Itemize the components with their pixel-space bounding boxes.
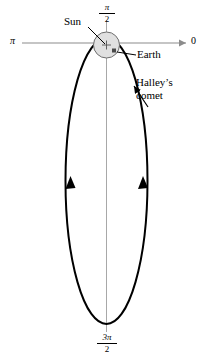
- angle-label-zero: 0: [191, 36, 196, 46]
- orbit-direction-arrow-left: [66, 176, 76, 189]
- halleys-comet-label-line1: Halley’s: [136, 76, 173, 89]
- angle-label-pi-over-2: π 2: [99, 3, 115, 25]
- halleys-comet-label: Halley’s comet: [136, 76, 173, 103]
- angle-label-pi-over-2-denominator: 2: [99, 15, 115, 24]
- earth-label: Earth: [137, 49, 161, 60]
- angle-label-3pi-over-2: 3π 2: [97, 333, 117, 355]
- angle-label-pi-over-2-numerator: π: [99, 3, 115, 12]
- angle-label-3pi-over-2-denominator: 2: [97, 345, 117, 354]
- diagram-canvas: [0, 0, 203, 364]
- angle-label-3pi-over-2-numerator: 3π: [97, 333, 117, 342]
- angle-label-pi: π: [10, 36, 15, 46]
- sun-label: Sun: [64, 16, 81, 27]
- earth-marker: [112, 49, 116, 53]
- halleys-comet-label-line2: comet: [136, 89, 173, 102]
- halley-comet-orbit-diagram: π 0 π 2 3π 2 Sun Earth Halley’s comet: [0, 0, 203, 364]
